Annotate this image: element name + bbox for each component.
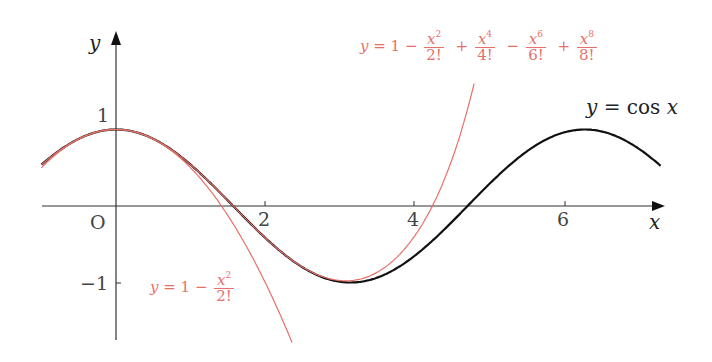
frac-exp: 8 bbox=[588, 29, 594, 39]
frac-den: 8! bbox=[577, 48, 597, 63]
x-tick-label-4: 4 bbox=[407, 210, 419, 229]
cos-var: x bbox=[667, 95, 678, 119]
taylor2-fraction: x22! bbox=[214, 271, 234, 304]
cos-lhs: y bbox=[586, 95, 597, 119]
taylor2-legend-label: y = 1 − x22! bbox=[150, 271, 236, 304]
taylor8-term-4: x88! bbox=[577, 30, 597, 63]
frac-exp: 2 bbox=[225, 270, 231, 280]
taylor8-term-1: x22! bbox=[424, 30, 444, 63]
frac-den: 4! bbox=[475, 48, 495, 63]
frac-den: 2! bbox=[424, 48, 444, 63]
x-tick-label-2: 2 bbox=[258, 210, 270, 229]
frac-exp: 6 bbox=[537, 29, 543, 39]
y-tick-label-neg1: −1 bbox=[80, 274, 108, 293]
operator: + bbox=[557, 37, 570, 55]
operator: + bbox=[456, 37, 469, 55]
chart-canvas bbox=[0, 0, 712, 362]
origin-label: O bbox=[90, 213, 106, 232]
taylor2-curve bbox=[41, 130, 292, 343]
taylor8-term-2: x44! bbox=[475, 30, 495, 63]
y-axis-label: y bbox=[89, 33, 100, 53]
cos-eq: = cos bbox=[597, 95, 666, 119]
cos-legend-label: y = cos x bbox=[586, 97, 678, 117]
y-axis-arrow-icon bbox=[111, 31, 121, 45]
operator: − bbox=[507, 37, 520, 55]
x-tick-label-6: 6 bbox=[557, 210, 569, 229]
frac-den: 6! bbox=[526, 48, 546, 63]
taylor8-legend-label: y = 1 − x22! +x44! −x66! +x88! bbox=[360, 30, 599, 63]
x-axis-label: x bbox=[649, 212, 660, 232]
y-tick-label-1: 1 bbox=[97, 106, 109, 125]
frac-exp: 4 bbox=[486, 29, 492, 39]
frac-den: 2! bbox=[214, 289, 234, 304]
taylor8-eq: = 1 − bbox=[368, 37, 422, 55]
taylor2-eq: = 1 − bbox=[158, 278, 212, 296]
taylor8-term-3: x66! bbox=[526, 30, 546, 63]
frac-exp: 2 bbox=[435, 29, 441, 39]
